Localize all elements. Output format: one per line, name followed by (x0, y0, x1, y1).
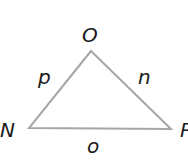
vertex-label-n: N (0, 118, 15, 142)
side-label-n: n (138, 65, 151, 89)
triangle-diagram: O N P p n o (0, 0, 188, 161)
vertex-label-p: P (180, 118, 188, 142)
side-label-p: p (37, 65, 51, 89)
side-label-o: o (87, 134, 99, 158)
triangle-nop (29, 51, 171, 129)
vertex-label-o: O (82, 23, 98, 47)
